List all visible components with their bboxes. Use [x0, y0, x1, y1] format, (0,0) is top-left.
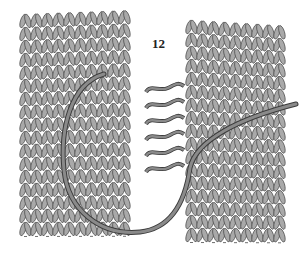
right-knitted-panel — [184, 20, 286, 243]
figure-number-label: 12 — [152, 36, 165, 52]
seam-ladder-bars — [146, 84, 184, 172]
